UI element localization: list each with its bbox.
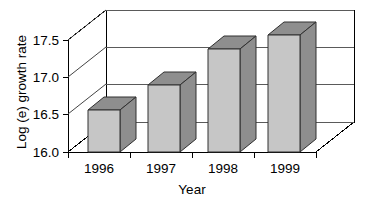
bar-front-face-1998 xyxy=(208,49,240,152)
y-tick-label-16-0: 16.0 xyxy=(33,145,59,160)
bar-side-face-1998 xyxy=(240,36,256,152)
bar-1997 xyxy=(148,72,196,152)
bar-1999 xyxy=(268,22,316,152)
y-tick-label-17-0: 17.0 xyxy=(33,70,59,85)
x-axis-ticks xyxy=(68,152,316,158)
x-tick-label-1998: 1998 xyxy=(208,161,238,176)
bar-front-face-1996 xyxy=(88,110,120,152)
bar-side-face-1999 xyxy=(300,22,316,152)
x-tick-label-1996: 1996 xyxy=(84,161,114,176)
y-tick-label-16-5: 16.5 xyxy=(33,107,59,122)
bar-1996 xyxy=(88,97,136,152)
x-tick-label-1997: 1997 xyxy=(146,161,176,176)
bar-front-face-1999 xyxy=(268,35,300,152)
floor-right-edge xyxy=(316,122,354,152)
chart-canvas: 17.5 17.0 16.5 16.0 xyxy=(0,0,366,202)
y-axis-title: Log (e) growth rate xyxy=(14,35,29,149)
y-axis-ticks xyxy=(63,40,68,152)
gridline-depth-17-0 xyxy=(68,47,106,77)
x-tick-label-1999: 1999 xyxy=(270,161,300,176)
y-tick-label-17-5: 17.5 xyxy=(33,33,59,48)
bar-1998 xyxy=(208,36,256,152)
gridline-depth-17-5 xyxy=(68,10,106,40)
bar-side-face-1997 xyxy=(180,72,196,152)
x-axis-tick-labels: 1996 1997 1998 1999 xyxy=(84,161,300,176)
x-axis-title: Year xyxy=(178,182,206,197)
y-axis-tick-labels: 17.5 17.0 16.5 16.0 xyxy=(33,33,59,160)
bar-front-face-1997 xyxy=(148,85,180,152)
bar-chart-figure: 17.5 17.0 16.5 16.0 xyxy=(0,0,366,202)
